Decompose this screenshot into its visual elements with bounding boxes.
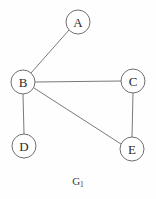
node-c: C <box>121 69 145 93</box>
figure-caption-subscript: 1 <box>80 180 84 189</box>
edge-b-c <box>35 81 121 82</box>
edge-group <box>23 30 133 144</box>
node-a: A <box>66 10 90 34</box>
node-e: E <box>120 137 144 161</box>
edge-b-d <box>23 94 24 134</box>
node-b: B <box>11 70 35 94</box>
edge-a-b <box>31 30 69 73</box>
figure-caption: G1 <box>0 176 156 188</box>
figure-caption-main: G <box>72 175 80 187</box>
node-e-label: E <box>128 142 136 157</box>
edge-c-e <box>132 93 133 137</box>
graph-diagram: A B C D E <box>0 0 156 199</box>
edge-b-e <box>34 88 121 144</box>
node-c-label: C <box>129 74 138 89</box>
node-d-label: D <box>19 139 28 154</box>
graph-figure: A B C D E G1 <box>0 0 156 199</box>
node-b-label: B <box>19 75 28 90</box>
node-d: D <box>12 134 36 158</box>
node-group: A B C D E <box>11 10 145 161</box>
node-a-label: A <box>73 15 83 30</box>
